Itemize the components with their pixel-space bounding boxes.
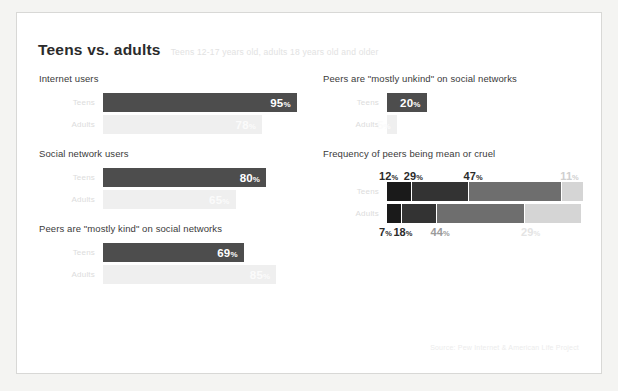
bar-value-teens: 95% xyxy=(270,97,291,109)
bar-label-adults: Adults xyxy=(39,120,103,129)
bar-row-teens: Teens 20% xyxy=(323,93,585,112)
bar-fill-adults: 85% xyxy=(103,265,276,284)
bar-row-teens: Teens 80% xyxy=(39,168,307,187)
stacked-value-adults-4: 29% xyxy=(521,226,581,238)
section-heading: Frequency of peers being mean or cruel xyxy=(323,148,585,159)
stacked-track-adults xyxy=(387,204,585,223)
bar-row-adults: Adults 78% xyxy=(39,115,307,134)
bar-track: 85% xyxy=(103,265,307,284)
stacked-values-teens: 12% 29% 47% 11% xyxy=(379,168,585,182)
bar-fill-teens: 20% xyxy=(387,93,427,112)
stacked-value-teens-4: 11% xyxy=(560,170,583,182)
stacked-segment-never xyxy=(561,182,583,201)
bar-row-teens: Teens 95% xyxy=(39,93,307,112)
section-social-network-users: Social network users Teens 80% Adults 65… xyxy=(39,148,307,209)
slide-title-row: Teens vs. adults Teens 12-17 years old, … xyxy=(38,41,379,59)
bar-fill-teens: 69% xyxy=(103,243,244,262)
bar-track: 80% xyxy=(103,168,307,187)
stacked-values-adults: 7% 18% 44% 29% xyxy=(379,226,585,240)
bar-fill-adults: 65% xyxy=(103,190,236,209)
page-title: Teens vs. adults xyxy=(38,41,161,59)
section-internet-users: Internet users Teens 95% Adults 78% xyxy=(39,73,307,134)
page-subtitle: Teens 12-17 years old, adults 18 years o… xyxy=(171,47,379,57)
bar-value-adults: 65% xyxy=(209,194,230,206)
stacked-value-teens-1: 12% xyxy=(379,170,404,182)
bar-fill-adults: 5% xyxy=(387,115,397,134)
stacked-segment-sometimes xyxy=(411,182,468,201)
bar-value-teens: 80% xyxy=(240,172,261,184)
bar-track: 95% xyxy=(103,93,307,112)
stacked-segment-never xyxy=(524,204,581,223)
bar-label-teens: Teens xyxy=(39,98,103,107)
section-heading: Internet users xyxy=(39,73,307,84)
bar-label-teens: Teens xyxy=(39,173,103,182)
stacked-value-teens-3: 47% xyxy=(463,170,560,182)
bar-track: 65% xyxy=(103,190,307,209)
bar-row-adults: Adults 85% xyxy=(39,265,307,284)
stacked-value-teens-2: 29% xyxy=(404,170,464,182)
bar-label-teens: Teens xyxy=(323,187,387,196)
bar-label-adults: Adults xyxy=(39,270,103,279)
bar-track: 69% xyxy=(103,243,307,262)
bar-value-adults: 85% xyxy=(250,269,271,281)
bar-row-adults: Adults 5% xyxy=(323,115,585,134)
bar-label-teens: Teens xyxy=(323,98,387,107)
stacked-segment-sometimes xyxy=(401,204,437,223)
stacked-segment-rarely xyxy=(468,182,561,201)
stacked-value-adults-3: 44% xyxy=(430,226,521,238)
bar-value-adults: 78% xyxy=(236,119,257,131)
stacked-value-adults-2: 18% xyxy=(393,226,430,238)
section-mostly-kind: Peers are "mostly kind" on social networ… xyxy=(39,223,307,284)
stacked-segment-frequently xyxy=(387,204,401,223)
bar-value-teens: 20% xyxy=(400,97,421,109)
bar-row-adults: Adults 65% xyxy=(39,190,307,209)
bar-fill-adults: 78% xyxy=(103,115,262,134)
bar-label-teens: Teens xyxy=(39,248,103,257)
stacked-row-adults: Adults xyxy=(323,204,585,223)
stacked-value-adults-1: 7% xyxy=(379,226,393,238)
slide-frame: Teens vs. adults Teens 12-17 years old, … xyxy=(16,12,602,374)
stacked-track-teens xyxy=(387,182,585,201)
slide-content: Teens vs. adults Teens 12-17 years old, … xyxy=(17,13,601,373)
section-mostly-unkind: Peers are "mostly unkind" on social netw… xyxy=(323,73,585,134)
bar-value-teens: 69% xyxy=(217,247,238,259)
bar-label-adults: Adults xyxy=(39,195,103,204)
bar-label-adults: Adults xyxy=(323,209,387,218)
right-column: Peers are "mostly unkind" on social netw… xyxy=(323,73,585,254)
section-mean-or-cruel: Frequency of peers being mean or cruel 1… xyxy=(323,148,585,240)
bar-fill-teens: 80% xyxy=(103,168,266,187)
bar-fill-teens: 95% xyxy=(103,93,297,112)
stacked-segment-rarely xyxy=(436,204,523,223)
source-credit: Source: Pew Internet & American Life Pro… xyxy=(430,344,579,351)
bar-value-adults: 5% xyxy=(377,119,391,131)
stacked-segment-frequently xyxy=(387,182,411,201)
bar-row-teens: Teens 69% xyxy=(39,243,307,262)
section-heading: Peers are "mostly unkind" on social netw… xyxy=(323,73,585,84)
stacked-row-teens: Teens xyxy=(323,182,585,201)
section-heading: Social network users xyxy=(39,148,307,159)
left-column: Internet users Teens 95% Adults 78% xyxy=(39,73,307,298)
bar-track: 20% xyxy=(387,93,585,112)
bar-track: 78% xyxy=(103,115,307,134)
section-heading: Peers are "mostly kind" on social networ… xyxy=(39,223,307,234)
bar-track: 5% xyxy=(387,115,585,134)
